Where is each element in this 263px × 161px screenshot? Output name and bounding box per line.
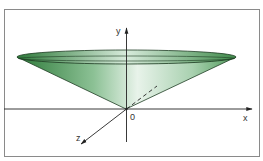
x-axis-label: x (243, 114, 248, 123)
cone-diagram (0, 0, 263, 161)
z-axis-label: z (76, 134, 81, 143)
origin-label: 0 (130, 113, 135, 122)
origin-point (125, 108, 127, 110)
y-axis-label: y (116, 27, 121, 36)
